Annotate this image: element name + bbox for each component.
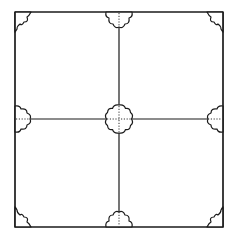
center-rosette-icon: [105, 105, 132, 133]
tile-pattern-svg: [0, 0, 235, 237]
bottom-edge-motif-icon: [106, 211, 132, 227]
top-edge-motif-icon: [106, 12, 132, 28]
bottom-right-corner-motif-icon: [207, 207, 223, 227]
top-left-corner-motif-icon: [15, 12, 31, 32]
top-right-corner-motif-icon: [207, 12, 223, 32]
right-edge-motif-icon: [207, 106, 223, 132]
left-edge-motif-icon: [15, 106, 31, 132]
bottom-left-corner-motif-icon: [15, 207, 31, 227]
tile-diagram: [0, 0, 235, 237]
